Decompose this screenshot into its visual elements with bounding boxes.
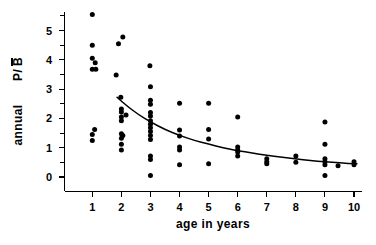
data-point [119, 136, 124, 141]
scatter-plot-svg: 012345 12345678910 annual P/ B age in ye… [0, 0, 376, 245]
data-point [206, 136, 211, 141]
data-point [93, 60, 98, 65]
data-point [352, 162, 357, 167]
data-point [177, 128, 182, 133]
data-point [119, 148, 124, 153]
data-point [322, 173, 327, 178]
data-point [322, 162, 327, 167]
data-point [120, 34, 125, 39]
data-point [206, 161, 211, 166]
y-tick-label-4: 4 [46, 54, 53, 66]
x-tick-label-1: 1 [89, 201, 95, 213]
data-point [90, 56, 95, 61]
data-point [177, 162, 182, 167]
data-point [177, 101, 182, 106]
data-point [177, 133, 182, 138]
data-point [90, 43, 95, 48]
data-point [293, 160, 298, 165]
data-point [293, 153, 298, 158]
x-tick-label-3: 3 [147, 201, 153, 213]
data-point [118, 95, 123, 100]
x-tick-label-4: 4 [176, 201, 183, 213]
data-point [264, 161, 269, 166]
data-point [148, 102, 153, 107]
data-point [116, 41, 121, 46]
y-axis-title-symbol-b: B [11, 57, 25, 66]
y-tick-label-5: 5 [46, 25, 52, 37]
y-axis-title-symbol-p: P/ [11, 69, 25, 81]
data-point [322, 142, 327, 147]
data-point [148, 157, 153, 162]
y-tick-label-0: 0 [46, 171, 52, 183]
chart-figure: 012345 12345678910 annual P/ B age in ye… [0, 0, 376, 245]
data-point [90, 12, 95, 17]
data-point [177, 148, 182, 153]
x-axis-title: age in years [176, 217, 250, 231]
y-axis-title-word: annual [11, 104, 25, 145]
data-point [90, 138, 95, 143]
data-point [119, 142, 124, 147]
data-point [93, 67, 98, 72]
y-tick-label-1: 1 [46, 142, 52, 154]
data-point [148, 173, 153, 178]
y-tick-label-2: 2 [46, 112, 52, 124]
data-point [206, 101, 211, 106]
x-tick-label-5: 5 [206, 201, 212, 213]
x-tick-label-10: 10 [348, 201, 360, 213]
data-point [90, 132, 95, 137]
data-point [119, 109, 124, 114]
data-point [235, 114, 240, 119]
data-point [119, 118, 124, 123]
data-point [148, 137, 153, 142]
data-point [336, 163, 341, 168]
data-point [92, 127, 97, 132]
plot-background [0, 0, 376, 245]
data-point [206, 127, 211, 132]
y-tick-label-3: 3 [46, 83, 52, 95]
x-tick-label-7: 7 [264, 201, 270, 213]
data-point [148, 84, 153, 89]
data-point [114, 73, 119, 78]
x-tick-label-8: 8 [293, 201, 299, 213]
x-tick-label-6: 6 [235, 201, 241, 213]
data-point [148, 114, 153, 119]
data-point [235, 153, 240, 158]
data-point [322, 119, 327, 124]
x-tick-label-9: 9 [322, 201, 328, 213]
x-tick-label-2: 2 [118, 201, 124, 213]
data-point [147, 63, 152, 68]
data-point [124, 112, 129, 117]
